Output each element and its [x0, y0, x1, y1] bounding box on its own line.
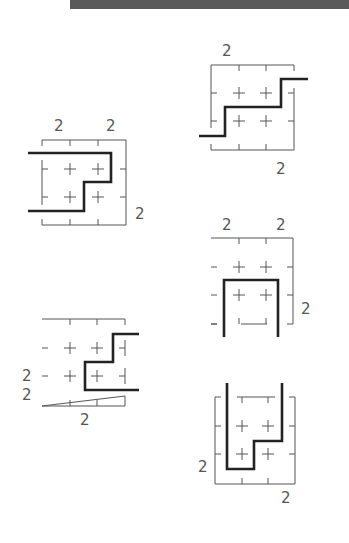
label: 2 — [106, 117, 116, 135]
label: 2 — [80, 411, 90, 429]
diagram-3: 2 2 2 — [22, 319, 139, 429]
label: 2 — [281, 489, 291, 507]
label: 2 — [301, 300, 311, 318]
label: 2 — [222, 42, 232, 60]
label: 2 — [22, 386, 32, 404]
diagram-canvas: 2 2 2 2 2 2 2 2 2 2 2 — [0, 0, 349, 543]
heavy-path — [199, 79, 308, 136]
label: 2 — [222, 216, 232, 234]
label: 2 — [276, 216, 286, 234]
label: 2 — [135, 205, 145, 223]
label: 2 — [54, 117, 64, 135]
diagram-4: 2 2 2 — [211, 216, 311, 337]
diagram-5: 2 2 — [198, 383, 295, 507]
label: 2 — [276, 160, 286, 178]
label: 2 — [22, 367, 32, 385]
label: 2 — [198, 458, 208, 476]
diagram-2: 2 2 — [199, 42, 308, 178]
heavy-path — [224, 280, 278, 337]
heavy-path — [85, 334, 139, 390]
diagram-1: 2 2 2 — [28, 117, 145, 225]
